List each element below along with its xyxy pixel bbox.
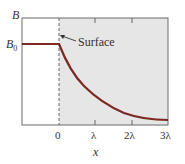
x-tick-2lambda: 2λ xyxy=(124,130,135,141)
y-axis-label: B xyxy=(12,9,19,21)
surface-annotation: Surface xyxy=(78,36,115,48)
x-tick-3lambda: 3λ xyxy=(160,130,171,141)
x-tick-0: 0 xyxy=(55,130,61,141)
b0-subscript: 0 xyxy=(13,44,17,53)
x-tick-lambda: λ xyxy=(91,130,96,141)
x-axis-label: x xyxy=(93,146,98,158)
y-tick-b0: B0 xyxy=(6,38,17,53)
